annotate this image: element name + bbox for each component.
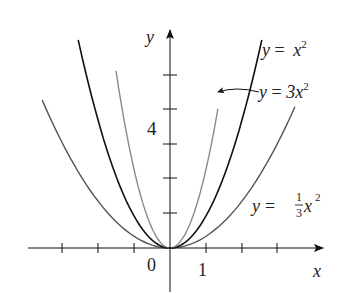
svg-text:=: = [265,196,275,216]
curve-one-third-x-squared [42,100,295,248]
y-tick-label-4: 4 [147,118,157,139]
parabola-family-chart: y x 0 1 4 y = x2 y = 3x2 y = 1 3 x 2 [0,0,355,293]
svg-text:y: y [250,196,260,216]
label-one-third-x-squared: y = 1 3 x 2 [250,190,321,220]
origin-label: 0 [147,255,156,275]
svg-text:x: x [303,196,312,216]
svg-text:2: 2 [315,191,321,203]
x-axis-label: x [312,261,321,281]
annotation-arrow [218,89,259,92]
y-axis-label: y [144,27,154,47]
label-x-squared: y = x2 [260,38,307,60]
svg-text:1: 1 [296,190,302,204]
x-tick-label-1: 1 [198,260,207,280]
svg-text:y = 3x2: y = 3x2 [257,80,309,102]
svg-text:y = x2: y = x2 [260,38,307,60]
label-three-x-squared: y = 3x2 [218,80,309,102]
svg-text:3: 3 [296,206,302,220]
